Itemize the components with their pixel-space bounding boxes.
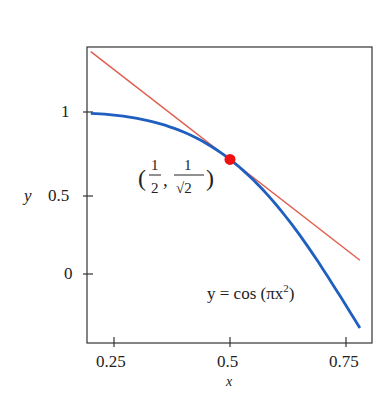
point-label: ( 1 2 , 1 √2 ): [138, 157, 214, 196]
y-tick-0.5: 0.5: [48, 186, 69, 206]
curve-annotation: y = cos (πx2): [207, 282, 294, 304]
annotation-close: ): [289, 284, 295, 303]
x-tick-0.75: 0.75: [329, 352, 359, 372]
y-tick-0: 0: [64, 264, 73, 284]
svg-text:,: ,: [163, 169, 168, 190]
svg-text:): ): [206, 165, 214, 191]
x-axis-label: x: [226, 374, 232, 390]
svg-text:1: 1: [184, 157, 192, 173]
svg-text:√2: √2: [176, 180, 192, 196]
tangent-point: [225, 154, 236, 165]
y-axis-label: y: [24, 186, 32, 206]
x-tick-0.25: 0.25: [96, 352, 126, 372]
y-tick-1: 1: [61, 102, 70, 122]
svg-text:1: 1: [151, 157, 159, 173]
chart: ( 1 2 , 1 √2 ) 1 0.5 y 0 0.25 0.5 0.75 x…: [0, 0, 382, 395]
svg-text:(: (: [138, 165, 146, 191]
svg-text:2: 2: [151, 180, 159, 196]
annotation-text: y = cos (πx: [207, 284, 283, 303]
x-tick-0.5: 0.5: [217, 352, 238, 372]
